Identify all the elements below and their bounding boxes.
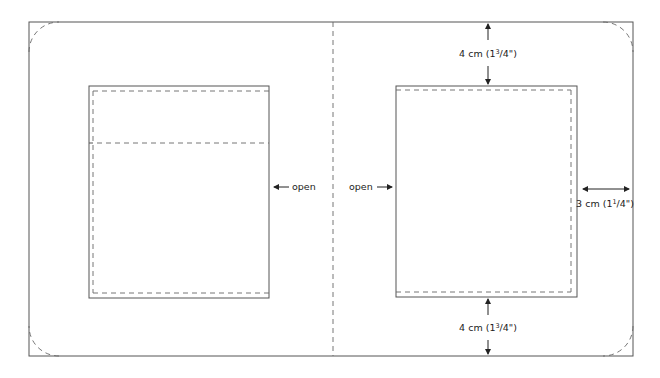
open-right-label: open — [349, 182, 373, 192]
bottom-margin-value: 4 cm (1 — [459, 322, 495, 333]
right-pocket — [396, 86, 577, 297]
side-margin-rest: /4") — [617, 198, 634, 209]
side-margin-value: 3 cm (1 — [576, 198, 612, 209]
top-margin-label: 4 cm (13/4") — [459, 49, 517, 59]
side-margin-label: 3 cm (11/4") — [576, 199, 634, 209]
pattern-diagram — [0, 0, 660, 378]
top-margin-value: 4 cm (1 — [459, 48, 495, 59]
open-left-label: open — [292, 182, 316, 192]
outer-frame — [29, 22, 633, 356]
bottom-margin-rest: /4") — [500, 322, 517, 333]
top-margin-rest: /4") — [500, 48, 517, 59]
rounded-corner-guides — [29, 22, 633, 356]
bottom-margin-label: 4 cm (13/4") — [459, 323, 517, 333]
left-pocket — [89, 86, 269, 298]
